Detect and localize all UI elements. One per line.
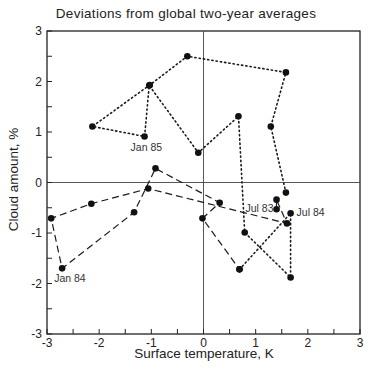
data-point [284, 220, 291, 227]
x-tick-label: 2 [304, 336, 311, 350]
data-point [241, 229, 248, 236]
y-tick-label: -1 [31, 226, 42, 240]
point-label: Jan 85 [131, 141, 163, 153]
x-tick-label: -1 [146, 336, 157, 350]
data-point [89, 123, 96, 130]
data-point [59, 265, 66, 272]
axis-ticks: -3-2-10123-3-2-10123 [31, 24, 363, 350]
point-label: Jul 83 [246, 202, 274, 214]
y-tick-label: -3 [31, 327, 42, 341]
data-point [273, 196, 280, 203]
data-point [287, 274, 294, 281]
point-label: Jan 84 [54, 272, 86, 284]
data-point [141, 133, 148, 140]
data-point [48, 215, 55, 222]
data-point [287, 210, 294, 217]
x-tick-label: -2 [94, 336, 105, 350]
data-point [236, 266, 243, 273]
data-point [199, 215, 206, 222]
data-point [273, 206, 280, 213]
point-label: Jul 84 [297, 206, 325, 218]
series-line-dashed [51, 168, 287, 269]
data-point [235, 113, 242, 120]
y-tick-label: 1 [35, 125, 42, 139]
data-point [88, 200, 95, 207]
point-annotations: Jul 83Jul 84Jan 84Jan 85 [54, 141, 325, 285]
series-line-dotted [92, 56, 290, 277]
x-tick-label: 1 [252, 336, 259, 350]
data-point [145, 185, 152, 192]
y-tick-label: -2 [31, 277, 42, 291]
data-point [184, 53, 191, 60]
axes-frame [47, 31, 360, 334]
x-tick-label: 3 [357, 336, 364, 350]
data-point [216, 199, 223, 206]
data-point [152, 165, 159, 172]
data-series [48, 53, 294, 281]
data-point [146, 82, 153, 89]
data-point [283, 69, 290, 76]
data-point [195, 149, 202, 156]
data-point [283, 189, 290, 196]
y-tick-label: 3 [35, 24, 42, 38]
data-point [131, 209, 138, 216]
x-tick-label: 0 [200, 336, 207, 350]
plot-area: -3-2-10123-3-2-10123 Jul 83Jul 84Jan 84J… [0, 0, 372, 378]
x-tick-label: -3 [42, 336, 53, 350]
y-tick-label: 0 [35, 176, 42, 190]
data-point [267, 123, 274, 130]
y-tick-label: 2 [35, 75, 42, 89]
